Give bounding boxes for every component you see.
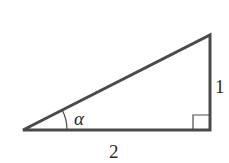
angle-arc	[62, 110, 67, 130]
triangle	[23, 35, 210, 130]
horizontal-side-label: 2	[109, 141, 119, 162]
angle-label: α	[74, 108, 85, 129]
vertical-side-label: 1	[215, 76, 225, 97]
right-angle-marker	[193, 115, 210, 130]
triangle-diagram: α 1 2	[0, 0, 229, 163]
